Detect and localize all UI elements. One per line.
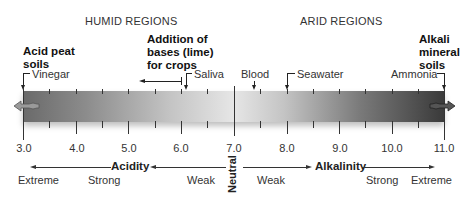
alkali-mineral-soils-label: Alkali mineral soils — [419, 33, 460, 72]
alkalinity-arrow-right-icon — [429, 165, 435, 169]
right-continuation-arrow-icon — [428, 100, 456, 112]
acidity-line-right — [156, 167, 226, 168]
left-continuation-arrow-icon — [13, 100, 41, 112]
acid-weak-label: Weak — [187, 174, 215, 186]
alk-weak-label: Weak — [257, 174, 285, 186]
tick-label-7: 7.0 — [226, 142, 241, 154]
blood-arrow-icon — [252, 85, 256, 90]
alk-strong-label: Strong — [366, 174, 398, 186]
seawater-label: Seawater — [297, 68, 343, 80]
tick-label-4: 4.0 — [69, 142, 84, 154]
vinegar-label: Vinegar — [32, 68, 70, 80]
lime-arrow-stop — [181, 77, 182, 85]
lime-arrow-head-icon — [139, 79, 145, 83]
saliva-arrow-icon — [184, 85, 188, 90]
alk-extreme-label: Extreme — [411, 174, 452, 186]
tick-label-10: 10.0 — [381, 142, 402, 154]
saliva-label: Saliva — [194, 68, 224, 80]
neutral-label: Neutral — [226, 155, 238, 193]
acidity-line-left — [35, 167, 111, 168]
acid-extreme-label: Extreme — [18, 174, 59, 186]
ammonia-pointer-h — [437, 73, 444, 74]
tick-label-6: 6.0 — [173, 142, 188, 154]
tick-label-8: 8.0 — [279, 142, 294, 154]
tick-label-5: 5.0 — [121, 142, 136, 154]
alkalinity-line-left — [243, 167, 307, 168]
alkalinity-line-right — [362, 167, 430, 168]
tick-label-11: 11.0 — [434, 142, 455, 154]
tick-label-9: 9.0 — [332, 142, 347, 154]
ammonia-label: Ammonia — [391, 68, 437, 80]
lime-addition-label: Addition of bases (lime) for crops — [147, 33, 213, 72]
humid-regions-label: HUMID REGIONS — [85, 15, 177, 27]
tick-label-3: 3.0 — [16, 142, 31, 154]
alkalinity-arrow-mid-icon — [306, 165, 312, 169]
seawater-pointer-h — [287, 73, 295, 74]
lime-arrow-line — [144, 81, 181, 82]
vinegar-pointer-h — [23, 73, 30, 74]
neutral-line — [234, 86, 235, 136]
alkalinity-label: Alkalinity — [315, 160, 366, 172]
blood-label: Blood — [241, 68, 269, 80]
acidity-label: Acidity — [111, 160, 149, 172]
arid-regions-label: ARID REGIONS — [300, 15, 382, 27]
acid-strong-label: Strong — [88, 174, 120, 186]
